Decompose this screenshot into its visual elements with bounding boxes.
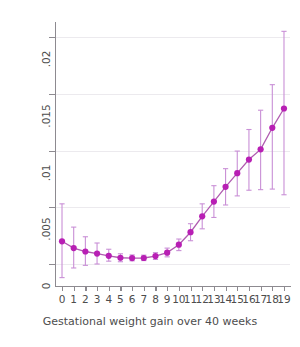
gridline-y-.005 <box>55 207 290 208</box>
y-tick-label-.01: .01 <box>40 150 52 196</box>
macrosomia-probability-chart: Probability of macrosomia 0.005.01.015.0… <box>0 0 300 347</box>
gridline-y-0 <box>55 264 290 265</box>
y-axis-title: Probability of macrosomia <box>0 0 30 347</box>
y-tick-label-0: 0 <box>40 263 52 309</box>
x-tick-mark-19 <box>284 286 285 291</box>
x-tick-mark-11 <box>191 286 192 291</box>
plot-area <box>55 22 290 282</box>
x-tick-mark-17 <box>261 286 262 291</box>
x-tick-mark-2 <box>85 286 86 291</box>
gridline-y-.015 <box>55 94 290 95</box>
gridline-y-.02 <box>55 37 290 38</box>
x-axis-line <box>55 286 291 287</box>
x-tick-mark-8 <box>155 286 156 291</box>
x-tick-mark-12 <box>202 286 203 291</box>
gridline-y-.01 <box>55 151 290 152</box>
x-tick-mark-5 <box>120 286 121 291</box>
x-tick-mark-13 <box>214 286 215 291</box>
x-tick-mark-3 <box>97 286 98 291</box>
y-axis-line <box>55 22 56 286</box>
x-tick-mark-14 <box>226 286 227 291</box>
x-tick-mark-7 <box>144 286 145 291</box>
x-tick-mark-0 <box>62 286 63 291</box>
y-tick-label-.02: .02 <box>40 36 52 82</box>
x-tick-mark-6 <box>132 286 133 291</box>
x-tick-label-19: 19 <box>274 293 294 305</box>
x-axis-title: Gestational weight gain over 40 weeks <box>0 315 300 328</box>
x-tick-mark-15 <box>237 286 238 291</box>
x-tick-mark-10 <box>179 286 180 291</box>
x-tick-mark-16 <box>249 286 250 291</box>
x-tick-mark-4 <box>109 286 110 291</box>
x-tick-mark-18 <box>272 286 273 291</box>
y-tick-label-.005: .005 <box>40 206 52 252</box>
y-tick-label-.015: .015 <box>40 93 52 139</box>
x-tick-mark-9 <box>167 286 168 291</box>
x-tick-mark-1 <box>74 286 75 291</box>
